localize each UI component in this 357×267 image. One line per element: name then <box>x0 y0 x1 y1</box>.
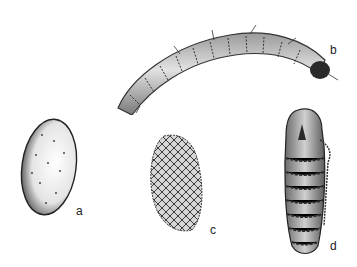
label-b: b <box>330 44 337 56</box>
label-d: d <box>330 240 337 252</box>
label-a: a <box>76 205 83 217</box>
egg-drawing-icon <box>18 115 80 219</box>
label-c: c <box>210 224 216 236</box>
pupa-drawing-icon <box>278 106 338 258</box>
insect-life-stages-illustration: b a <box>0 0 357 267</box>
egg-figure <box>18 115 80 219</box>
larva-drawing-icon <box>110 10 340 115</box>
pupa-figure <box>278 106 338 258</box>
larva-figure <box>110 10 340 115</box>
cocoon-drawing-icon <box>146 132 208 234</box>
cocoon-figure <box>146 132 208 234</box>
